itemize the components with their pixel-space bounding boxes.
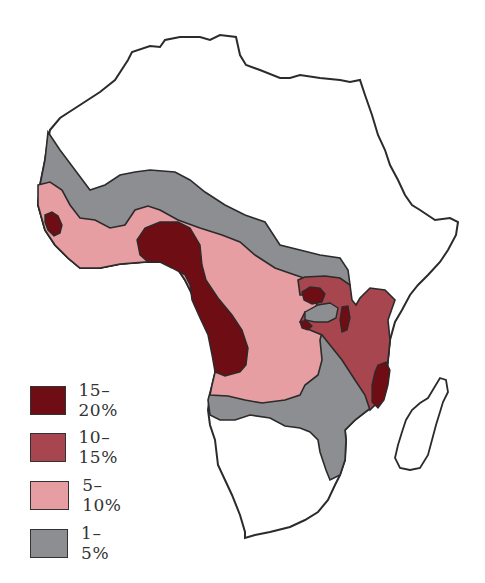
madagascar	[395, 378, 448, 470]
legend-item-5-10: 5–10%	[30, 475, 130, 515]
legend-label-15-20: 15–20%	[79, 380, 131, 420]
legend-swatch-5-10	[30, 481, 69, 510]
legend-swatch-15-20	[30, 386, 66, 415]
legend-swatch-10-15	[30, 433, 66, 462]
legend-label-10-15: 10–15%	[79, 427, 131, 467]
region-15-20-percent-uganda	[302, 287, 325, 304]
legend-item-15-20: 15–20%	[30, 380, 130, 420]
legend-swatch-1-5	[30, 529, 68, 558]
legend-label-1-5: 1–5%	[81, 523, 119, 563]
legend-label-5-10: 5–10%	[82, 475, 130, 515]
legend-item-10-15: 10–15%	[30, 427, 130, 467]
legend-item-1-5: 1–5%	[30, 523, 119, 563]
